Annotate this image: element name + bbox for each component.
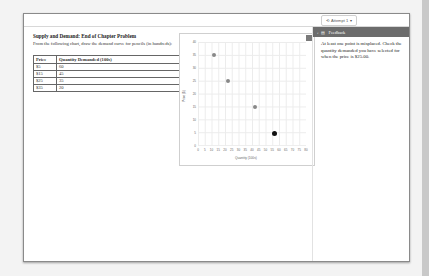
y-tick-label: 35 xyxy=(186,53,196,57)
feedback-message: At least one point is misplaced. Check t… xyxy=(321,41,407,61)
y-tick-label: 10 xyxy=(186,118,196,122)
cell-quantity: 45 xyxy=(57,71,183,78)
x-axis-label: Quantity (100s) xyxy=(235,156,257,160)
table-row: $15 45 xyxy=(34,71,183,78)
x-tick-label: 80 xyxy=(302,148,310,152)
feedback-header[interactable]: ‹ ▤ Feedback xyxy=(313,27,409,37)
feedback-title: Feedback xyxy=(328,30,345,35)
data-table: Price Quantity Demanded (100s) $5 60 $15… xyxy=(33,55,183,92)
data-point[interactable] xyxy=(253,105,257,109)
data-point[interactable] xyxy=(226,79,230,83)
problem-description: From the following chart, draw the deman… xyxy=(33,41,183,47)
data-point[interactable] xyxy=(272,131,277,136)
chevron-left-icon: ‹ xyxy=(317,30,318,35)
cell-quantity: 20 xyxy=(57,85,183,92)
header-quantity: Quantity Demanded (100s) xyxy=(57,56,183,64)
cell-price: $25 xyxy=(34,78,57,85)
y-tick-label: 20 xyxy=(186,92,196,96)
graph-widget: Price ($) Quantity (100s) 05101520253035… xyxy=(179,33,315,166)
table-header-row: Price Quantity Demanded (100s) xyxy=(34,56,183,64)
top-bar: ⟲ Attempt 1 ▾ xyxy=(24,14,409,27)
cell-price: $35 xyxy=(34,85,57,92)
plot-area[interactable] xyxy=(198,42,306,146)
feedback-panel: ‹ ▤ Feedback At least one point is mispl… xyxy=(312,27,409,261)
problem-card: ⟲ Attempt 1 ▾ Supply and Demand: End of … xyxy=(23,13,410,262)
problem-title: Supply and Demand: End of Chapter Proble… xyxy=(33,33,136,39)
history-icon: ⟲ xyxy=(326,18,329,23)
table-row: $5 60 xyxy=(34,64,183,71)
cell-price: $15 xyxy=(34,71,57,78)
cell-quantity: 60 xyxy=(57,64,183,71)
data-point[interactable] xyxy=(212,53,216,57)
y-tick-label: 30 xyxy=(186,66,196,70)
attempt-label: Attempt 1 xyxy=(331,18,348,23)
chevron-down-icon: ▾ xyxy=(350,18,352,23)
attempt-dropdown[interactable]: ⟲ Attempt 1 ▾ xyxy=(321,15,357,26)
feedback-icon: ▤ xyxy=(321,30,325,35)
y-tick-label: 5 xyxy=(186,131,196,135)
header-price: Price xyxy=(34,56,57,64)
y-tick-label: 25 xyxy=(186,79,196,83)
y-tick-label: 15 xyxy=(186,105,196,109)
y-tick-label: 40 xyxy=(186,40,196,44)
cell-price: $5 xyxy=(34,64,57,71)
table-row: $35 20 xyxy=(34,85,183,92)
cell-quantity: 35 xyxy=(57,78,183,85)
table-row: $25 35 xyxy=(34,78,183,85)
page-scrollbar[interactable] xyxy=(422,0,429,276)
